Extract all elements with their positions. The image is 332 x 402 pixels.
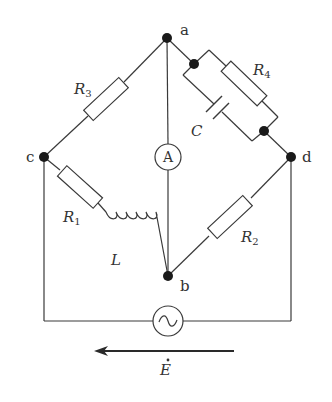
ammeter: A bbox=[155, 144, 181, 170]
branch-a-d bbox=[167, 38, 291, 157]
branch-a-b: A bbox=[155, 38, 181, 276]
svg-text:E: E bbox=[159, 361, 171, 379]
ammeter-label: A bbox=[162, 149, 174, 165]
ac-source bbox=[153, 306, 183, 336]
node-d-label: d bbox=[302, 148, 312, 166]
junction-dot-left bbox=[189, 59, 199, 69]
junction-dot-right bbox=[259, 126, 269, 136]
r1-label: R1 bbox=[62, 208, 81, 227]
node-a bbox=[162, 33, 172, 43]
node-b bbox=[163, 271, 173, 281]
r3-label: R3 bbox=[73, 80, 92, 99]
emf-label: E bbox=[159, 359, 171, 379]
bridge-circuit-diagram: A a b c bbox=[0, 0, 332, 402]
branch-b-d bbox=[168, 157, 291, 276]
resistor-r3 bbox=[84, 78, 129, 121]
node-d bbox=[286, 152, 296, 162]
emf-arrow bbox=[94, 346, 234, 356]
node-c bbox=[39, 152, 49, 162]
node-b-label: b bbox=[180, 277, 190, 295]
l-label: L bbox=[110, 251, 121, 269]
node-a-label: a bbox=[180, 21, 189, 39]
resistor-r1 bbox=[57, 166, 102, 209]
r4-label: R4 bbox=[252, 61, 271, 80]
node-c-label: c bbox=[26, 148, 34, 166]
branch-c-a bbox=[44, 38, 167, 157]
c-label: C bbox=[191, 122, 203, 140]
r2-label: R2 bbox=[240, 228, 259, 247]
